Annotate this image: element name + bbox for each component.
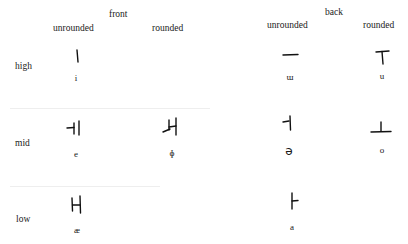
header-front: front: [109, 10, 127, 20]
header-front-rounded: rounded: [152, 24, 183, 34]
hangul-u-glyph: [375, 50, 391, 66]
ipa-i: i: [75, 74, 78, 83]
ipa-o: o: [380, 146, 385, 155]
ipa-e: e: [74, 150, 78, 159]
scan-artifact-line: [10, 108, 210, 109]
header-front-unrounded: unrounded: [53, 24, 94, 34]
ipa-phi: ɸ: [170, 149, 175, 158]
row-label-mid: mid: [15, 139, 30, 149]
header-back-rounded: rounded: [363, 21, 394, 31]
scan-artifact-line: [10, 186, 160, 187]
ipa-u: u: [380, 72, 385, 81]
ipa-unrounded-u: ɯ: [286, 73, 293, 82]
hangul-eo-glyph: [283, 116, 295, 132]
row-label-high: high: [15, 62, 32, 72]
row-label-low: low: [16, 215, 30, 225]
hangul-oe-glyph: [163, 117, 179, 137]
ipa-ae: æ: [74, 226, 80, 235]
ipa-a: a: [290, 223, 294, 232]
ipa-schwa: ə: [285, 145, 292, 157]
header-back: back: [325, 8, 343, 18]
hangul-e-glyph: [67, 120, 81, 136]
hangul-o-glyph: [371, 122, 393, 134]
hangul-i-glyph: [74, 50, 80, 64]
hangul-a-glyph: [290, 193, 300, 211]
hangul-ae-glyph: [71, 196, 83, 214]
hangul-eu-glyph: [283, 53, 299, 57]
header-back-unrounded: unrounded: [267, 21, 308, 31]
